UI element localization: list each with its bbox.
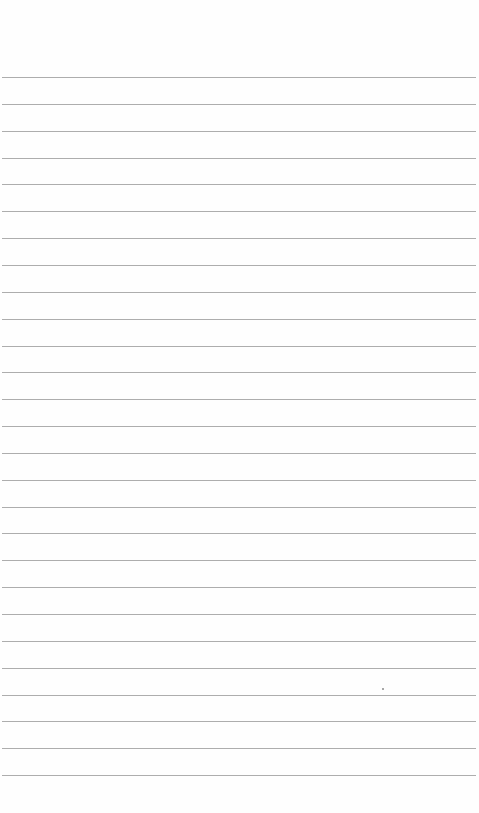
ruled-line	[2, 211, 476, 212]
ruled-line	[2, 372, 476, 373]
ruled-line	[2, 533, 476, 534]
ruled-line	[2, 104, 476, 105]
ruled-line	[2, 238, 476, 239]
ruled-line	[2, 614, 476, 615]
ruled-line	[2, 480, 476, 481]
ruled-line	[2, 131, 476, 132]
ruled-line	[2, 507, 476, 508]
ruled-line	[2, 399, 476, 400]
ruled-line	[2, 346, 476, 347]
ruled-line	[2, 721, 476, 722]
ruled-line	[2, 426, 476, 427]
ruled-line	[2, 158, 476, 159]
ruled-line	[2, 184, 476, 185]
ruled-line	[2, 775, 476, 776]
ruled-line	[2, 668, 476, 669]
ruled-line	[2, 587, 476, 588]
ruled-line	[2, 265, 476, 266]
ruled-line	[2, 319, 476, 320]
ruled-line	[2, 695, 476, 696]
ruled-line	[2, 292, 476, 293]
ruled-line	[2, 453, 476, 454]
lined-paper-page	[0, 0, 479, 813]
ruled-line	[2, 748, 476, 749]
ruled-line	[2, 560, 476, 561]
ink-speck	[382, 688, 384, 690]
ruled-line	[2, 77, 476, 78]
ruled-line	[2, 641, 476, 642]
